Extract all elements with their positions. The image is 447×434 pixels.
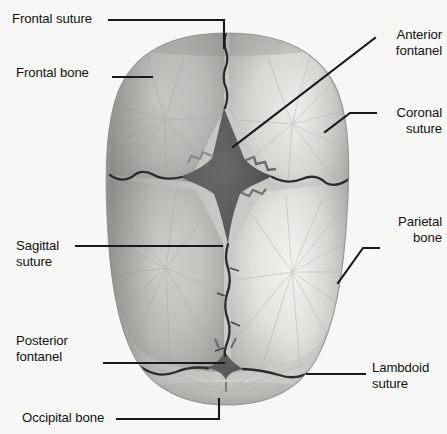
fetal-skull-figure: Frontal suture Frontal bone Anterior fon… (0, 0, 447, 434)
label-frontal-suture: Frontal suture (12, 11, 92, 27)
skull-body (77, 4, 377, 434)
label-frontal-bone: Frontal bone (16, 65, 89, 81)
label-parietal-bone: Parietal bone (384, 214, 442, 245)
label-lambdoid-suture: Lambdoid suture (372, 360, 447, 391)
label-anterior-fontanel: Anterior fontanel (376, 27, 442, 58)
label-sagittal-suture: Sagittal suture (16, 238, 76, 269)
label-occipital-bone: Occipital bone (22, 410, 104, 426)
label-posterior-fontanel: Posterior fontanel (16, 333, 100, 364)
label-coronal-suture: Coronal suture (382, 105, 442, 136)
